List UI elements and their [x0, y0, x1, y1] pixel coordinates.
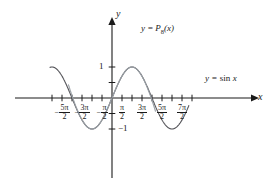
- curve-label-sine: y =sinx: [205, 74, 237, 83]
- curve-label-polynomial: y =P8(x): [141, 24, 174, 35]
- y-tick-label: −1: [118, 124, 128, 133]
- tick-fraction: 7π2: [177, 104, 187, 122]
- poly-label-lead: y =: [141, 23, 153, 33]
- figure-sine-taylor-polynomial: −5π2−3π2−π2π23π25π27π2 1−1 x y y =P8(x) …: [0, 0, 276, 189]
- x-axis-label: x: [258, 92, 262, 102]
- y-tick-label: 1: [99, 62, 104, 71]
- sine-label-lead: y =: [205, 73, 217, 83]
- y-axis-arrowhead: [108, 17, 115, 25]
- y-axis-label: y: [116, 9, 120, 19]
- tick-denominator: 2: [177, 113, 187, 121]
- tick-denominator: 2: [119, 113, 125, 121]
- sine-label-arg: x: [233, 73, 237, 83]
- sine-label-fn: sin: [220, 73, 231, 83]
- poly-label-arg: (x): [164, 23, 174, 33]
- tick-fraction: π2: [119, 104, 125, 122]
- axes-group: [15, 17, 259, 178]
- plot-canvas: [0, 0, 276, 189]
- x-tick-label: 7π2: [166, 104, 198, 122]
